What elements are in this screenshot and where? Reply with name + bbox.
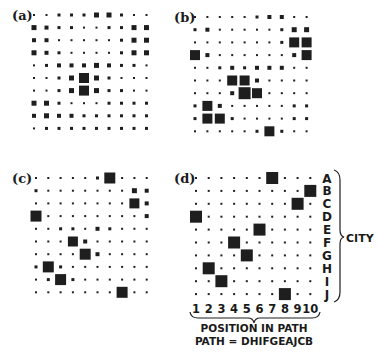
neuron-cell [194,104,197,107]
neuron-cell [302,37,312,47]
neuron-cell [215,275,227,287]
city-label: A [322,172,332,186]
neuron-cell [233,267,235,269]
neuron-cell [271,242,273,244]
neuron-cell [280,130,283,133]
neuron-cell [195,229,197,231]
neuron-cell [255,66,259,70]
panels: (a)(b)(c)(d) [12,8,316,300]
neuron-cell [108,39,110,41]
neuron-cell [293,16,295,18]
position-labels: 12345678910 [192,302,318,316]
neuron-cell [309,293,311,295]
neuron-cell [79,73,89,83]
hopfield-tsp-figure: (a)(b)(c)(d) ABCDEFGHIJ CITY 12345678910… [0,0,379,353]
neuron-cell [132,188,137,193]
neuron-cell [306,16,308,18]
neuron-cell [121,253,123,255]
position-label: 4 [230,302,238,316]
city-label: B [322,184,331,198]
neuron-cell [219,54,221,56]
neuron-cell [246,203,248,205]
neuron-cell [268,92,270,94]
neuron-cell [246,293,248,295]
neuron-cell [84,279,86,281]
neuron-cell [233,280,235,282]
neuron-cell [97,241,99,243]
neuron-cell [219,80,221,82]
neuron-cell [108,114,111,117]
neuron-cell [233,293,235,295]
neuron-cell [233,229,235,231]
neuron-cell [297,267,299,269]
neuron-cell [35,177,37,179]
neuron-cell [109,215,111,217]
neuron-cell [227,76,237,86]
neuron-cell [195,242,197,244]
neuron-cell [72,266,74,268]
neuron-cell [230,66,234,70]
neuron-cell [33,127,35,129]
neuron-cell [208,203,210,205]
neuron-cell [259,280,261,282]
neuron-cell [297,229,299,231]
neuron-cell [72,253,74,255]
position-label: 3 [217,302,225,316]
neuron-cell [133,279,135,281]
neuron-cell [69,76,74,81]
neuron-cell [293,117,296,120]
neuron-cell [206,67,208,69]
panel-c: (c) [12,171,149,298]
neuron-cell [133,90,135,92]
neuron-cell [121,177,123,179]
neuron-cell [121,241,123,243]
neuron-cell [239,87,251,99]
neuron-cell [190,211,202,223]
neuron-cell [97,190,99,192]
neuron-cell [83,127,86,130]
neuron-cell [309,242,311,244]
neuron-cell [96,177,99,180]
position-label: 7 [268,302,276,316]
neuron-cell [31,211,42,222]
neuron-cell [71,227,74,230]
neuron-cell [233,190,235,192]
neuron-cell [46,90,48,92]
neuron-cell [246,280,248,282]
neuron-cell [218,104,222,108]
neuron-cell [32,50,37,55]
neuron-cell [68,237,78,247]
neuron-cell [84,266,86,268]
neuron-cell [205,28,209,32]
neuron-cell [293,130,295,132]
neuron-cell [231,16,233,18]
neuron-cell [83,102,85,104]
neuron-cell [60,215,62,217]
neuron-cell [284,177,286,179]
neuron-cell [246,177,248,179]
neuron-cell [205,53,209,57]
neuron-cell [47,291,49,293]
neuron-cell [195,203,197,205]
neuron-cell [47,215,49,217]
neuron-cell [256,16,259,19]
neuron-cell [70,114,74,118]
neuron-cell [233,254,235,256]
neuron-cell [281,105,283,107]
neuron-cell [60,241,62,243]
neuron-cell [145,214,149,218]
neuron-cell [47,241,49,243]
neuron-cell [35,279,37,281]
city-label: G [322,249,332,263]
neuron-cell [58,89,61,92]
neuron-cell [292,198,304,210]
neuron-cell [271,254,273,256]
neuron-cell [279,288,291,300]
neuron-cell [297,190,299,192]
neuron-cell [133,14,135,16]
neuron-cell [202,101,212,111]
neuron-cell [194,117,197,120]
neuron-cell [108,77,111,80]
neuron-cell [309,229,311,231]
neuron-cell [219,29,221,31]
